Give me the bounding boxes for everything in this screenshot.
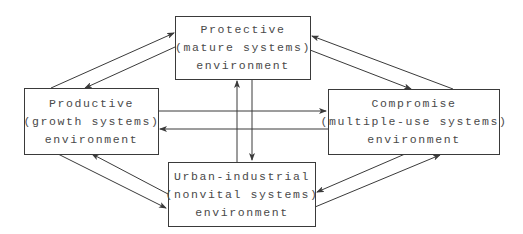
node-title: Productive	[49, 95, 134, 113]
arrow-urban-to-compromise	[315, 155, 440, 207]
node-title: Compromise	[371, 95, 456, 113]
node-label: environment	[195, 204, 289, 222]
node-title: Protective	[200, 21, 285, 39]
node-label: environment	[367, 131, 461, 149]
node-protective: Protective (mature systems) environment	[175, 16, 311, 80]
environment-systems-diagram: Protective (mature systems) environment …	[0, 0, 523, 234]
arrow-urban-to-productive	[92, 154, 168, 194]
node-label: environment	[196, 57, 290, 75]
node-subtitle: (mature systems)	[175, 39, 311, 57]
arrow-productive-to-protective	[51, 33, 174, 88]
node-urban-industrial: Urban-industrial (nonvital systems) envi…	[168, 162, 316, 227]
arrow-productive-to-urban	[58, 154, 166, 208]
arrow-compromise-to-urban	[317, 154, 405, 192]
node-compromise: Compromise (multiple-use systems) enviro…	[328, 89, 500, 155]
arrow-compromise-to-protective	[312, 36, 453, 89]
node-subtitle: (nonvital systems)	[165, 186, 318, 204]
arrow-protective-to-compromise	[310, 50, 411, 89]
node-subtitle: (growth systems)	[23, 113, 159, 131]
node-title: Urban-industrial	[174, 168, 310, 186]
node-productive: Productive (growth systems) environment	[24, 88, 159, 155]
node-label: environment	[45, 131, 139, 149]
node-subtitle: (multiple-use systems)	[320, 113, 507, 131]
